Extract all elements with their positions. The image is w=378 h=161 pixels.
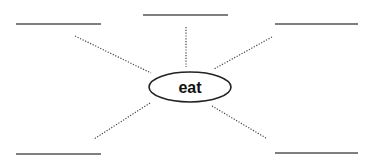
spoke-bottom-right xyxy=(212,106,266,138)
word-web-diagram: eat xyxy=(0,0,378,161)
center-word: eat xyxy=(178,79,202,96)
spoke-top-left xyxy=(75,36,151,73)
spoke-top-right xyxy=(214,37,272,69)
spoke-bottom-left xyxy=(94,103,150,139)
